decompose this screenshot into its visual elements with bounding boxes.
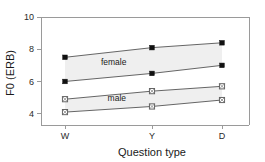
data-point-female-lower-D xyxy=(220,63,225,68)
data-point-female-lower-Y xyxy=(150,71,155,76)
data-point-male-lower-Y xyxy=(149,104,154,109)
chart-container: 46810 WYD femalemale Question type F0 (E… xyxy=(0,0,265,162)
x-tick-label: W xyxy=(61,131,70,141)
data-point-female-upper-W xyxy=(63,55,68,60)
plot-bands xyxy=(65,43,222,112)
male-band xyxy=(65,86,222,112)
y-tick-label: 6 xyxy=(29,77,34,87)
y-tick-label: 8 xyxy=(29,44,34,54)
y-tick-label: 4 xyxy=(29,109,34,119)
data-point-male-upper-W xyxy=(62,97,67,102)
y-tick-label: 10 xyxy=(24,12,34,22)
f0-by-question-type-chart: 46810 WYD femalemale Question type F0 (E… xyxy=(0,0,265,162)
data-point-female-upper-Y xyxy=(150,45,155,50)
data-point-male-upper-D xyxy=(219,84,224,89)
x-tick-label: D xyxy=(219,131,226,141)
x-axis-title: Question type xyxy=(118,146,186,158)
annotation-male: male xyxy=(108,93,127,103)
data-point-male-upper-Y xyxy=(149,89,154,94)
data-point-male-lower-D xyxy=(219,97,224,102)
y-axis-title: F0 (ERB) xyxy=(4,50,16,96)
data-point-male-lower-W xyxy=(62,110,67,115)
data-point-female-lower-W xyxy=(63,79,68,84)
data-point-female-upper-D xyxy=(220,40,225,45)
annotation-female: female xyxy=(101,57,127,67)
x-axis-ticks: WYD xyxy=(61,125,226,141)
x-tick-label: Y xyxy=(149,131,155,141)
y-axis-ticks: 46810 xyxy=(24,12,41,119)
